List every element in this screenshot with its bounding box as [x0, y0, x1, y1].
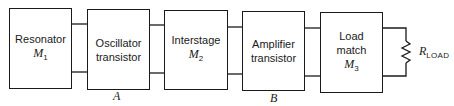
amplifier-label-line1: Amplifier: [252, 37, 295, 51]
oscillator-label-line1: Oscillator: [96, 36, 142, 50]
load-resistor-label: RLOAD: [419, 44, 449, 60]
loadmatch-label-line1: Load: [339, 29, 363, 43]
loadmatch-symbol: M3: [344, 57, 358, 76]
node-label-b: B: [270, 91, 277, 106]
amplifier-label-line2: transistor: [251, 51, 296, 65]
interstage-label: Interstage: [172, 33, 221, 47]
oscillator-transistor-block: Oscillator transistor: [87, 9, 150, 90]
amplifier-transistor-block: Amplifier transistor: [242, 11, 305, 91]
interstage-symbol: M2: [189, 47, 203, 66]
oscillator-label-line2: transistor: [96, 50, 141, 64]
resonator-label: Resonator: [15, 32, 66, 46]
loadmatch-label-line2: match: [337, 43, 367, 57]
resonator-symbol: M1: [33, 46, 47, 65]
load-match-block: Load match M3: [320, 12, 383, 93]
interstage-block: Interstage M2: [164, 10, 228, 90]
node-label-a: A: [113, 89, 120, 104]
resonator-block: Resonator M1: [9, 8, 72, 89]
